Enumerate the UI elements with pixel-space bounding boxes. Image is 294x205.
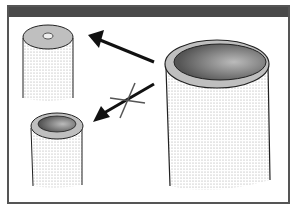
diagram-canvas [0, 0, 294, 205]
large-tube-figure [165, 40, 270, 190]
arrow-to-small-tube-blocked [93, 83, 154, 122]
arrow-to-solid-rod [88, 30, 154, 62]
solid-rod-figure [23, 25, 73, 101]
small-tube-figure [31, 113, 83, 188]
